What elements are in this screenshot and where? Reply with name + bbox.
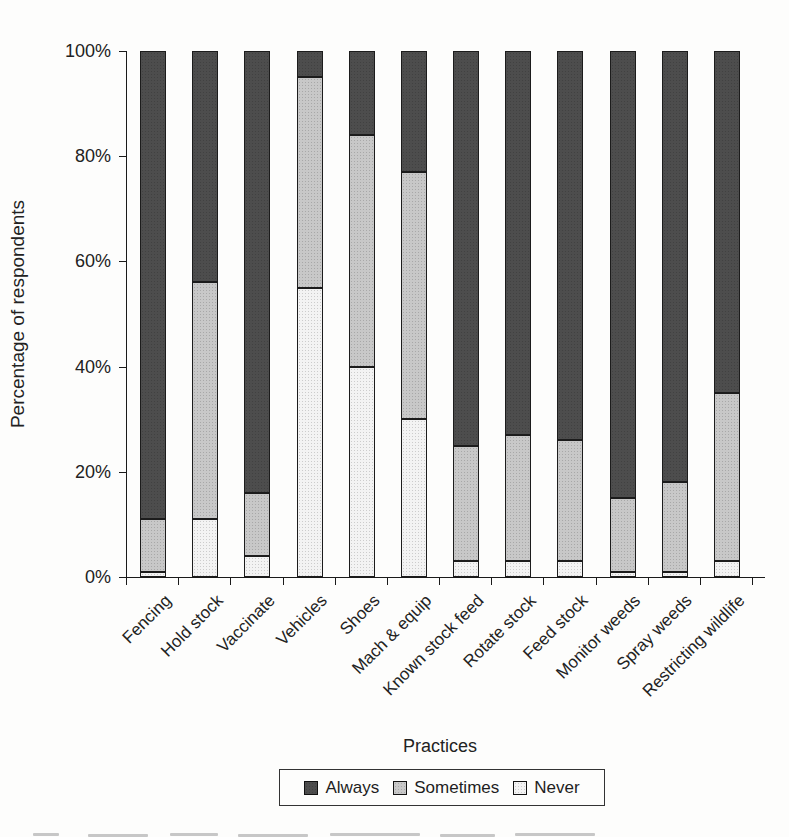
stacked-bar-chart-figure: 0%20%40%60%80%100% Percentage of respond… bbox=[0, 0, 789, 837]
y-tick-label: 20% bbox=[31, 463, 111, 481]
x-tick bbox=[596, 578, 597, 585]
bar-spray-weeds bbox=[662, 51, 688, 577]
segment-never bbox=[453, 561, 479, 577]
x-tick bbox=[752, 578, 753, 585]
segment-sometimes bbox=[192, 282, 218, 519]
x-axis-line bbox=[126, 577, 765, 578]
segment-never bbox=[714, 561, 740, 577]
y-tick-label: 0% bbox=[31, 568, 111, 586]
segment-sometimes bbox=[349, 135, 375, 366]
segment-sometimes bbox=[610, 498, 636, 572]
bar-rotate-stock bbox=[505, 51, 531, 577]
segment-sometimes bbox=[140, 519, 166, 572]
segment-never bbox=[140, 572, 166, 577]
segment-always bbox=[349, 51, 375, 135]
y-axis-title: Percentage of respondents bbox=[7, 84, 29, 544]
x-axis-title: Practices bbox=[127, 736, 753, 757]
segment-never bbox=[401, 419, 427, 577]
segment-sometimes bbox=[714, 393, 740, 561]
segment-always bbox=[662, 51, 688, 482]
legend-label: Never bbox=[534, 778, 579, 798]
y-tick-label: 100% bbox=[31, 42, 111, 60]
x-tick bbox=[387, 578, 388, 585]
bar-restricting-wildlife bbox=[714, 51, 740, 577]
segment-always bbox=[297, 51, 323, 77]
x-tick bbox=[648, 578, 649, 585]
segment-sometimes bbox=[557, 440, 583, 561]
legend-label: Always bbox=[325, 778, 379, 798]
bar-feed-stock bbox=[557, 51, 583, 577]
bar-vaccinate bbox=[244, 51, 270, 577]
legend-item-never: Never bbox=[513, 778, 579, 798]
y-tick bbox=[119, 472, 126, 473]
x-tick bbox=[230, 578, 231, 585]
segment-sometimes bbox=[662, 482, 688, 571]
segment-never bbox=[349, 367, 375, 577]
segment-always bbox=[140, 51, 166, 519]
segment-always bbox=[401, 51, 427, 172]
bar-fencing bbox=[140, 51, 166, 577]
segment-always bbox=[192, 51, 218, 282]
segment-never bbox=[297, 288, 323, 577]
segment-always bbox=[244, 51, 270, 493]
bar-hold-stock bbox=[192, 51, 218, 577]
x-tick bbox=[335, 578, 336, 585]
segment-sometimes bbox=[505, 435, 531, 561]
y-tick-label: 80% bbox=[31, 147, 111, 165]
bar-monitor-weeds bbox=[610, 51, 636, 577]
y-tick bbox=[119, 577, 126, 578]
bar-shoes bbox=[349, 51, 375, 577]
legend-box: AlwaysSometimesNever bbox=[279, 769, 605, 806]
y-tick bbox=[119, 261, 126, 262]
segment-always bbox=[505, 51, 531, 435]
segment-never bbox=[662, 572, 688, 577]
bar-mach-equip bbox=[401, 51, 427, 577]
x-tick bbox=[126, 578, 127, 585]
segment-always bbox=[453, 51, 479, 446]
legend-swatch-never bbox=[513, 781, 527, 795]
legend-item-sometimes: Sometimes bbox=[393, 778, 499, 798]
segment-always bbox=[714, 51, 740, 393]
plot-area bbox=[127, 51, 753, 577]
segment-always bbox=[610, 51, 636, 498]
segment-never bbox=[505, 561, 531, 577]
segment-always bbox=[557, 51, 583, 440]
bar-known-stock-feed bbox=[453, 51, 479, 577]
y-tick-label: 60% bbox=[31, 252, 111, 270]
y-tick bbox=[119, 51, 126, 52]
y-axis-line bbox=[126, 51, 127, 578]
legend-label: Sometimes bbox=[414, 778, 499, 798]
legend-item-always: Always bbox=[304, 778, 379, 798]
x-category-label: Vehicles bbox=[273, 591, 332, 650]
bar-vehicles bbox=[297, 51, 323, 577]
legend-swatch-sometimes bbox=[393, 781, 407, 795]
segment-never bbox=[610, 572, 636, 577]
x-tick bbox=[439, 578, 440, 585]
x-tick bbox=[700, 578, 701, 585]
x-category-label: Shoes bbox=[336, 591, 384, 639]
segment-sometimes bbox=[244, 493, 270, 556]
x-tick bbox=[491, 578, 492, 585]
segment-never bbox=[557, 561, 583, 577]
segment-never bbox=[244, 556, 270, 577]
segment-never bbox=[192, 519, 218, 577]
segment-sometimes bbox=[297, 77, 323, 287]
y-tick bbox=[119, 156, 126, 157]
x-tick bbox=[283, 578, 284, 585]
segment-sometimes bbox=[453, 446, 479, 562]
legend-swatch-always bbox=[304, 781, 318, 795]
y-tick bbox=[119, 367, 126, 368]
y-tick-label: 40% bbox=[31, 358, 111, 376]
x-tick bbox=[543, 578, 544, 585]
segment-sometimes bbox=[401, 172, 427, 419]
x-tick bbox=[178, 578, 179, 585]
